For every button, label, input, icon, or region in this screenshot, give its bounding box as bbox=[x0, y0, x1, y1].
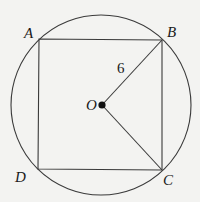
radius-length-label: 6 bbox=[117, 60, 125, 76]
label-b: B bbox=[167, 24, 176, 40]
segment-ob bbox=[102, 40, 162, 105]
geometry-diagram: A B C D O 6 bbox=[0, 0, 200, 202]
label-c: C bbox=[163, 172, 174, 188]
segment-oc bbox=[102, 105, 162, 170]
label-a: A bbox=[23, 25, 34, 41]
label-d: D bbox=[14, 169, 26, 185]
label-o: O bbox=[86, 97, 97, 113]
center-point bbox=[98, 101, 105, 108]
